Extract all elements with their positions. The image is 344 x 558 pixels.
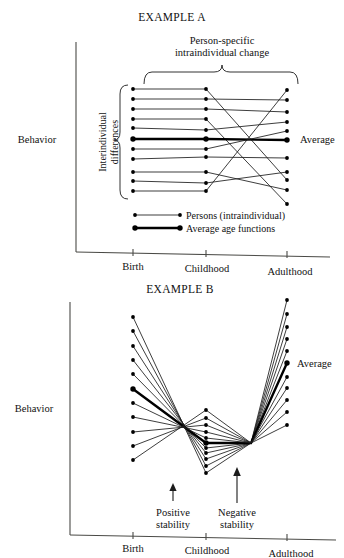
data-point <box>131 87 135 91</box>
person-specific-label-line2: intraindividual change <box>175 47 270 58</box>
positive-stability-annotation: Positive stability <box>156 483 191 530</box>
series-person-3 <box>131 107 289 114</box>
x-label-birth-b: Birth <box>122 543 144 554</box>
data-point <box>285 88 289 92</box>
data-point <box>204 446 208 450</box>
data-point <box>285 120 289 124</box>
data-point <box>285 312 289 316</box>
series-line-person-1 <box>133 89 287 180</box>
data-point <box>204 147 208 151</box>
x-label-birth-a: Birth <box>122 261 144 272</box>
series-line-person-7 <box>133 157 287 159</box>
data-point <box>204 128 208 132</box>
data-point <box>131 358 135 362</box>
data-point <box>204 87 208 91</box>
data-point <box>285 156 289 160</box>
negative-stability-line1: Negative <box>218 507 256 518</box>
x-label-childhood-b: Childhood <box>185 545 230 556</box>
data-point <box>131 147 135 151</box>
data-point <box>131 344 135 348</box>
positive-stability-line2: stability <box>156 519 191 530</box>
series-line-person-3 <box>133 109 287 112</box>
data-point <box>203 440 208 445</box>
example-a-chart: EXAMPLE A Person-specific intraindividua… <box>0 0 344 280</box>
legend-dot-thin-left <box>133 213 137 217</box>
series-person-7 <box>131 386 289 443</box>
positive-stability-arrowhead <box>169 483 176 491</box>
data-point <box>285 178 289 182</box>
data-point <box>204 471 208 475</box>
series-person-2 <box>131 312 289 468</box>
data-point <box>131 329 135 333</box>
series-person-1 <box>131 298 289 475</box>
data-point <box>131 117 135 121</box>
legend-dot-thick-right <box>177 225 182 230</box>
data-point <box>131 189 135 193</box>
data-point <box>285 398 289 402</box>
data-point <box>285 423 289 427</box>
legend-label-average: Average age functions <box>186 223 275 234</box>
data-point <box>204 170 208 174</box>
x-label-adulthood-b: Adulthood <box>269 548 315 558</box>
series-line-person-8 <box>133 172 287 190</box>
data-point <box>285 170 289 174</box>
average-label-b: Average <box>297 358 332 369</box>
data-point <box>285 188 289 192</box>
interindividual-label-line1: Interindividual <box>97 112 108 172</box>
data-point <box>131 157 135 161</box>
data-point <box>204 451 208 455</box>
data-point <box>285 349 289 353</box>
negative-stability-annotation: Negative stability <box>218 467 256 530</box>
y-label-behavior-b: Behavior <box>15 403 54 414</box>
data-point <box>131 315 135 319</box>
data-point <box>131 444 135 448</box>
series-average <box>130 136 289 142</box>
x-axis-a <box>76 252 330 257</box>
y-label-behavior-a: Behavior <box>18 134 57 145</box>
data-point <box>204 416 208 420</box>
data-point <box>284 360 289 365</box>
data-point <box>131 126 135 130</box>
data-point <box>204 436 208 440</box>
data-point <box>204 117 208 121</box>
data-point <box>285 298 289 302</box>
data-point <box>130 136 135 141</box>
person-specific-label-line1: Person-specific <box>190 35 255 46</box>
legend-label-persons: Persons (intraindividual) <box>186 210 285 222</box>
data-point <box>131 107 135 111</box>
series-line-person-9 <box>133 172 287 183</box>
data-point <box>204 430 208 434</box>
example-b-title: EXAMPLE B <box>146 283 214 295</box>
data-point <box>204 464 208 468</box>
data-point <box>285 337 289 341</box>
data-point <box>204 107 208 111</box>
example-b-chart: EXAMPLE B Birth Childhood Adulthood Beha… <box>0 280 344 558</box>
series-person-5 <box>131 120 289 132</box>
data-point <box>204 97 208 101</box>
series-line-average <box>133 139 287 140</box>
top-bracket <box>144 65 298 84</box>
data-point <box>285 325 289 329</box>
x-label-adulthood-a: Adulthood <box>268 266 314 277</box>
data-point <box>285 386 289 390</box>
data-point <box>131 401 135 405</box>
legend-a: Persons (intraindividual) Average age fu… <box>132 210 285 234</box>
data-point <box>285 410 289 414</box>
data-point <box>131 170 135 174</box>
figure-container: EXAMPLE A Person-specific intraindividua… <box>0 0 344 558</box>
data-point <box>131 97 135 101</box>
data-point <box>131 415 135 419</box>
legend-dot-thick-left <box>132 225 137 230</box>
series-person-1 <box>131 87 289 182</box>
data-point <box>204 457 208 461</box>
series-person-4 <box>131 117 289 206</box>
data-point <box>130 386 135 391</box>
data-point <box>285 375 289 379</box>
series-line-person-1 <box>133 300 287 473</box>
data-point <box>285 202 289 206</box>
data-point <box>203 136 208 141</box>
series-line-person-2 <box>133 99 287 100</box>
data-point <box>285 129 289 133</box>
example-b-series-group <box>130 298 289 475</box>
data-point <box>131 372 135 376</box>
